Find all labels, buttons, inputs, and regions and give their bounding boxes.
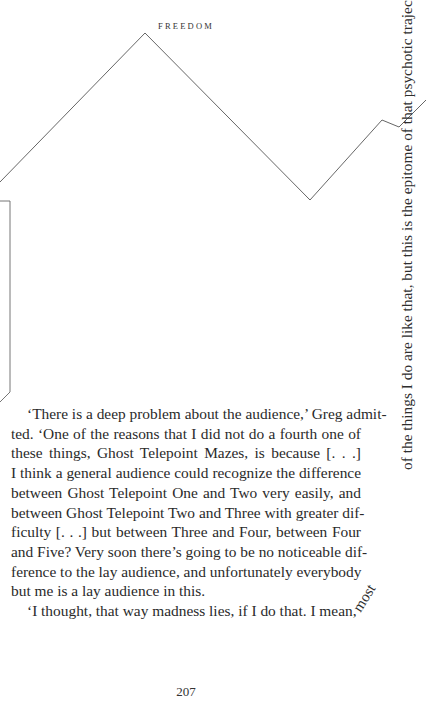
vertical-trajectory-text: of the things I do are like that, but th…: [398, 0, 416, 470]
text-line: between Ghost Telepoint Two and Three wi…: [11, 503, 361, 523]
text-line: and Five? Very soon there’s going to be …: [11, 542, 361, 562]
text-line: but me is a lay audience in this.: [11, 581, 361, 601]
page-number: 207: [0, 684, 372, 700]
zigzag-trajectory-line: [0, 33, 426, 200]
text-line: ference to the lay audience, and unfortu…: [11, 562, 361, 582]
text-line: ‘I thought, that way madness lies, if I …: [11, 601, 361, 621]
text-line: between Ghost Telepoint One and Two very…: [11, 483, 361, 503]
text-line: ‘There is a deep problem about the audie…: [11, 404, 361, 424]
text-line: these things, Ghost Telepoint Mazes, is …: [11, 443, 361, 463]
body-text: ‘There is a deep problem about the audie…: [11, 404, 361, 621]
text-line: I think a general audience could recogni…: [11, 463, 361, 483]
running-head: FREEDOM: [0, 21, 372, 31]
vertical-text-content: of the things I do are like that, but th…: [398, 0, 415, 470]
text-line: ficulty [. . .] but between Three and Fo…: [11, 522, 361, 542]
left-bracket-outline: [0, 201, 10, 402]
text-line: ted. ‘One of the reasons that I did not …: [11, 424, 361, 444]
